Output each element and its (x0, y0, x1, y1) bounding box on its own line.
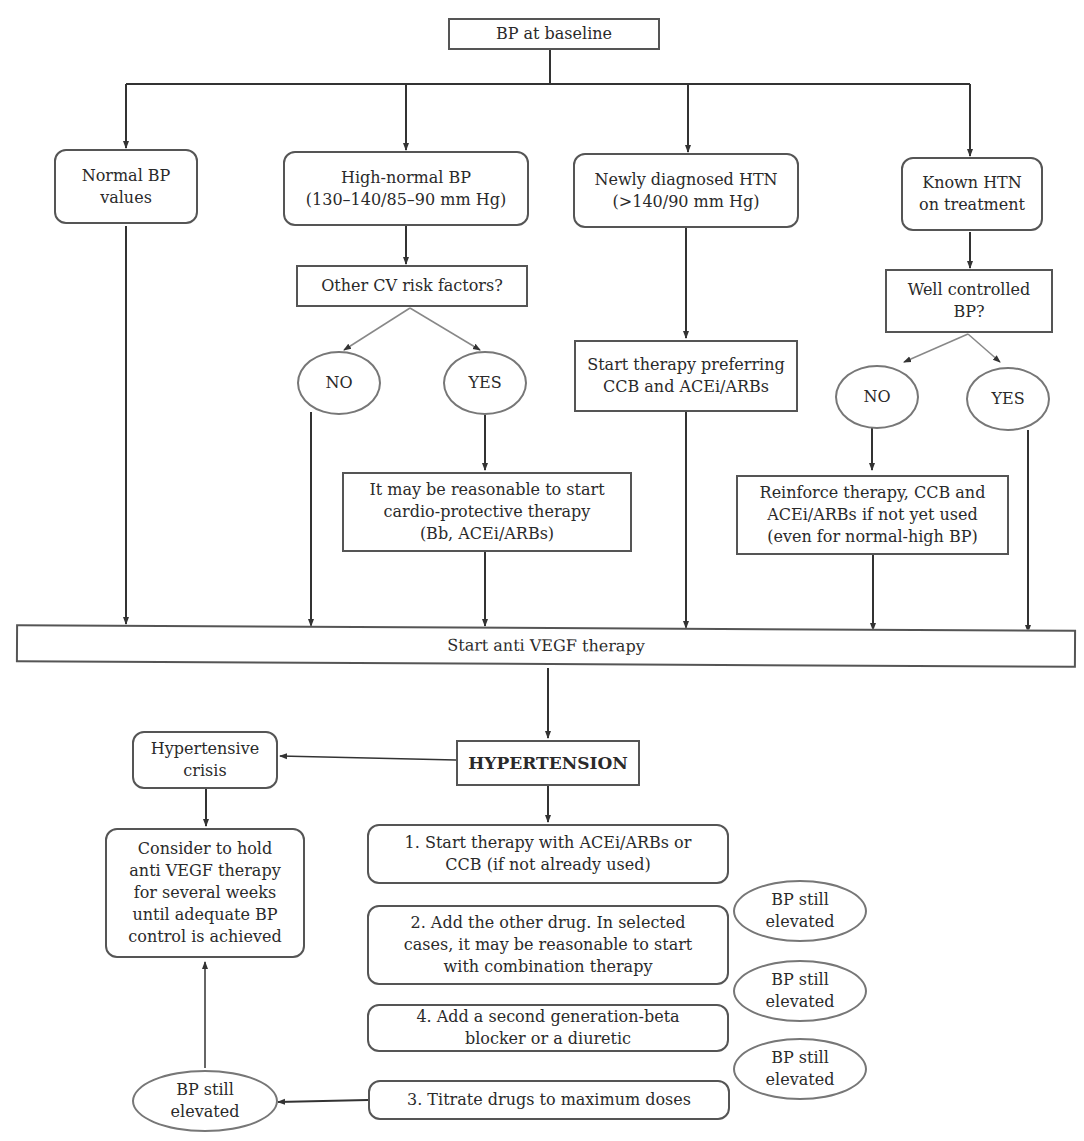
node-label: It may be reasonable to start cardio-pro… (369, 479, 604, 545)
node-normal-bp: Normal BP values (54, 149, 198, 224)
node-high-normal-bp: High-normal BP (130–140/85–90 mm Hg) (283, 151, 529, 226)
node-label: Normal BP values (82, 165, 171, 209)
node-step-2: 2. Add the other drug. In selected cases… (367, 905, 729, 985)
node-known-htn: Known HTN on treatment (901, 157, 1043, 231)
node-label: Other CV risk factors? (321, 275, 503, 297)
node-label: Start anti VEGF therapy (447, 634, 645, 657)
node-label: Well controlled BP? (908, 279, 1030, 323)
node-label: 2. Add the other drug. In selected cases… (404, 912, 693, 978)
node-label: BP still elevated (766, 1047, 835, 1091)
node-other-cv-risk-factors: Other CV risk factors? (296, 265, 528, 307)
node-label: NO (863, 386, 890, 408)
node-label: 3. Titrate drugs to maximum doses (407, 1089, 691, 1111)
node-label: 4. Add a second generation-beta blocker … (416, 1006, 679, 1050)
node-label: 1. Start therapy with ACEi/ARBs or CCB (… (405, 832, 692, 876)
node-hypertension: HYPERTENSION (456, 740, 640, 786)
node-wc-no: NO (835, 365, 919, 429)
node-label: High-normal BP (130–140/85–90 mm Hg) (306, 167, 506, 211)
node-step-1: 1. Start therapy with ACEi/ARBs or CCB (… (367, 824, 729, 884)
node-label: YES (991, 388, 1024, 410)
node-reinforce-therapy: Reinforce therapy, CCB and ACEi/ARBs if … (736, 475, 1009, 555)
node-label: Hypertensive crisis (151, 738, 259, 782)
node-label: BP still elevated (766, 969, 835, 1013)
node-start-anti-vegf: Start anti VEGF therapy (16, 624, 1076, 668)
node-label: BP at baseline (496, 23, 612, 45)
node-label: Reinforce therapy, CCB and ACEi/ARBs if … (760, 482, 986, 548)
node-bp-still-elevated-left: BP still elevated (132, 1070, 278, 1132)
node-label: Known HTN on treatment (919, 172, 1025, 216)
node-start-therapy-ccb: Start therapy preferring CCB and ACEi/AR… (574, 340, 798, 412)
node-label: NO (325, 372, 352, 394)
node-label: BP still elevated (766, 889, 835, 933)
node-wc-yes: YES (966, 367, 1050, 431)
node-newly-diagnosed-htn: Newly diagnosed HTN (>140/90 mm Hg) (573, 153, 799, 228)
node-label: HYPERTENSION (468, 752, 628, 774)
node-label: Newly diagnosed HTN (>140/90 mm Hg) (594, 169, 777, 213)
node-cardio-protective-therapy: It may be reasonable to start cardio-pro… (342, 472, 632, 552)
node-cv-no: NO (297, 351, 381, 415)
node-label: YES (468, 372, 501, 394)
node-consider-hold-therapy: Consider to hold anti VEGF therapy for s… (105, 828, 305, 958)
node-step-3: 3. Titrate drugs to maximum doses (368, 1080, 730, 1120)
node-label: BP still elevated (171, 1079, 240, 1123)
node-bp-still-elevated-1: BP still elevated (733, 880, 867, 942)
node-label: Consider to hold anti VEGF therapy for s… (128, 838, 281, 948)
node-bp-at-baseline: BP at baseline (448, 18, 660, 50)
node-bp-still-elevated-3: BP still elevated (733, 1038, 867, 1100)
node-cv-yes: YES (443, 351, 527, 415)
node-hypertensive-crisis: Hypertensive crisis (132, 731, 278, 789)
node-label: Start therapy preferring CCB and ACEi/AR… (587, 354, 785, 398)
node-step-4: 4. Add a second generation-beta blocker … (367, 1004, 729, 1052)
node-well-controlled-bp: Well controlled BP? (885, 269, 1053, 333)
node-bp-still-elevated-2: BP still elevated (733, 960, 867, 1022)
